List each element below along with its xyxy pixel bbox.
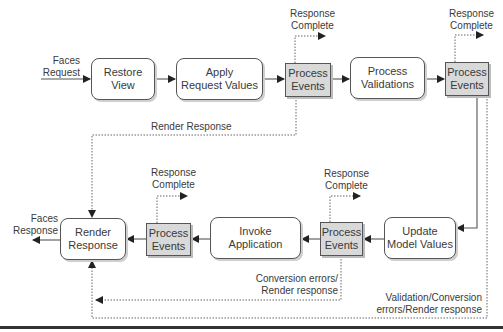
phase-update-model-values: Update Model Values — [384, 217, 456, 259]
label-response-complete-2: Response Complete — [444, 8, 499, 32]
label-faces-response: Faces Response — [2, 213, 58, 237]
process-events-after-validations: Process Events — [445, 62, 489, 96]
label-response-complete-3: Response Complete — [146, 167, 201, 191]
label-response-complete-4: Response Complete — [319, 168, 374, 192]
label-validation-conversion-errors: Validation/Conversion errors/Render resp… — [360, 292, 482, 316]
label-render-response-path: Render Response — [151, 121, 232, 133]
process-events-after-invoke: Process Events — [146, 223, 191, 256]
phase-apply-request-values: Apply Request Values — [176, 58, 263, 100]
process-events-after-apply: Process Events — [285, 63, 331, 97]
label-conversion-errors: Conversion errors/ Render response — [240, 273, 338, 297]
phase-render-response: Render Response — [60, 218, 126, 260]
phase-restore-view: Restore View — [91, 58, 155, 100]
bottom-rule — [0, 326, 503, 329]
phase-invoke-application: Invoke Application — [210, 217, 301, 259]
label-faces-request: Faces Request — [22, 55, 80, 79]
phase-process-validations: Process Validations — [350, 57, 425, 99]
process-events-after-update: Process Events — [320, 222, 363, 256]
label-response-complete-1: Response Complete — [285, 8, 340, 32]
